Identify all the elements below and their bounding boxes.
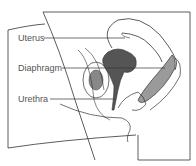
label-urethra: Urethra [18,94,48,104]
anatomy-diagram: Uterus Diaphragm Urethra [0,0,196,166]
label-diaphragm: Diaphragm [18,63,62,73]
anatomy-illustration [0,0,196,166]
label-uterus: Uterus [18,33,45,43]
